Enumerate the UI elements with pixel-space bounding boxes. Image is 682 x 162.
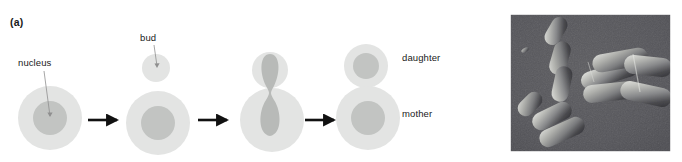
label-bud: bud	[140, 32, 156, 43]
label-daughter: daughter	[402, 52, 440, 63]
dic-micrograph-image	[470, 0, 682, 162]
figure-root: (a)	[0, 0, 682, 162]
label-nucleus: nucleus	[18, 57, 51, 68]
label-mother: mother	[402, 108, 432, 119]
panel-a-yeast-budding-diagram: (a)	[0, 0, 470, 162]
stage-2-small-bud	[126, 54, 190, 155]
stage-4-mother-and-daughter	[336, 44, 400, 150]
budding-cycle-diagram	[0, 0, 470, 162]
stage-1-unbudded-cell	[18, 86, 82, 150]
stage-3-nucleus-dividing	[240, 52, 304, 152]
panel-b-micrograph: (b)	[470, 0, 682, 162]
